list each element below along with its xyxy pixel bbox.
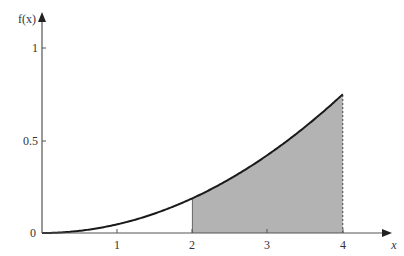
- chart: 0 1 2 3 4 0.5 1 x f(x): [0, 0, 404, 256]
- x-tick-label: 2: [189, 238, 195, 252]
- x-tick-label: 3: [264, 238, 270, 252]
- y-tick-label: 0.5: [23, 134, 38, 148]
- x-axis-title: x: [390, 238, 397, 252]
- origin-label: 0: [30, 226, 36, 240]
- x-tick-label: 1: [114, 238, 120, 252]
- y-axis-title: f(x): [18, 12, 36, 26]
- x-axis-arrow-icon: [382, 229, 392, 237]
- y-tick-label: 1: [32, 41, 38, 55]
- y-axis-arrow-icon: [38, 12, 46, 22]
- x-tick-label: 4: [340, 238, 346, 252]
